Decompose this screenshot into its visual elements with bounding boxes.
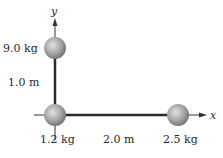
x-axis-arrow-icon <box>199 113 207 118</box>
distance-label-vertical: 1.0 m <box>8 76 40 89</box>
mass-label-top: 9.0 kg <box>3 42 38 55</box>
mass-label-origin: 1.2 kg <box>40 133 75 146</box>
mass-ball-origin <box>44 104 66 126</box>
mass-system-diagram: y x 9.0 kg 1.2 kg 2.5 kg 1.0 m 2.0 m <box>0 0 223 158</box>
x-axis-label: x <box>210 109 217 122</box>
y-axis-arrow-icon <box>53 18 58 26</box>
mass-ball-top <box>44 37 66 59</box>
distance-label-horizontal: 2.0 m <box>103 133 135 146</box>
y-axis-label: y <box>50 5 58 18</box>
mass-label-right: 2.5 kg <box>163 133 198 146</box>
mass-ball-right <box>167 104 189 126</box>
